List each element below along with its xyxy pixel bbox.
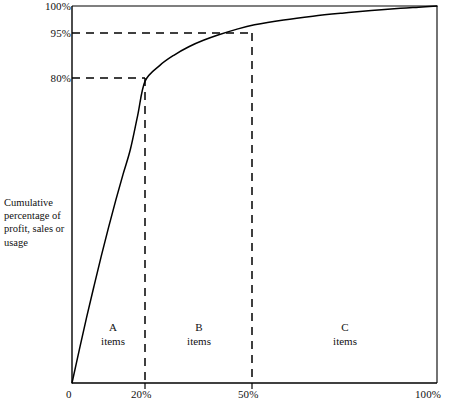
zone-a-letter: A [78, 320, 148, 334]
zone-label-a: A items [78, 320, 148, 348]
y-axis-label: Cumulative percentage of profit, sales o… [4, 196, 68, 249]
x-tick-label-50: 50% [238, 388, 258, 400]
zone-c-letter: C [310, 320, 380, 334]
y-tick-label-80: 80% [51, 72, 71, 84]
zone-c-items: items [310, 334, 380, 348]
zone-b-items: items [164, 334, 234, 348]
x-tick-label-0: 0 [66, 388, 72, 400]
x-axis-ticks [145, 383, 252, 389]
x-tick-label-100: 100% [415, 388, 441, 400]
zone-b-letter: B [164, 320, 234, 334]
zone-a-items: items [78, 334, 148, 348]
zone-label-b: B items [164, 320, 234, 348]
y-tick-label-95: 95% [51, 27, 71, 39]
pareto-abc-chart: 100% 95% 80% 0 20% 50% 100% Cumulative p… [0, 0, 450, 413]
zone-label-c: C items [310, 320, 380, 348]
x-tick-label-20: 20% [131, 388, 151, 400]
y-tick-label-100: 100% [45, 0, 71, 12]
